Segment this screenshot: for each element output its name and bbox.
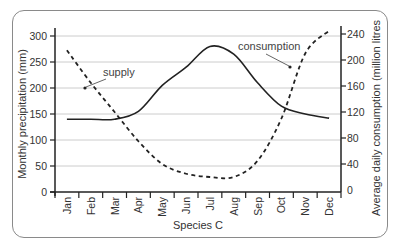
y2-tick-label: 120 (347, 106, 365, 118)
y-tick-label: 0 (41, 186, 47, 198)
x-tick-label: Jan (61, 197, 73, 214)
x-tick-label: Jun (180, 197, 192, 214)
y-tick-label: 50 (35, 160, 47, 172)
x-axis-title: Species C (173, 219, 223, 231)
consumption-label: consumption (238, 40, 300, 52)
y2-tick-label: 80 (347, 132, 359, 144)
y-tick-label: 200 (29, 82, 47, 94)
x-tick-label: May (156, 196, 168, 217)
consumption-line (67, 31, 329, 179)
chart: 050100150200250300 04080120160200240 Jan… (0, 0, 400, 252)
y2-tick-label: 160 (347, 80, 365, 92)
x-tick-label: Feb (85, 197, 97, 215)
y2-axis-title: Average daily consumption (million litre… (370, 19, 382, 216)
supply-arrow (86, 79, 106, 87)
right-axis: 04080120160200240 (341, 26, 365, 196)
y-axis-title: Monthly precipitation (mm) (16, 49, 28, 179)
consumption-arrow (266, 54, 289, 66)
x-tick-label: Aug (228, 197, 240, 216)
y2-tick-label: 200 (347, 54, 365, 66)
x-tick-label: Sep (252, 197, 264, 216)
y2-tick-label: 40 (347, 158, 359, 170)
y-tick-label: 150 (29, 108, 47, 120)
left-axis: 050100150200250300 (29, 28, 55, 198)
x-tick-label: Nov (299, 196, 311, 215)
y-tick-label: 300 (29, 30, 47, 42)
supply-arrow-head (83, 86, 86, 89)
y-tick-label: 100 (29, 134, 47, 146)
supply-line (67, 46, 329, 120)
y2-tick-label: 240 (347, 28, 365, 40)
consumption-arrow-head (288, 65, 291, 68)
x-tick-label: Mar (109, 197, 121, 216)
supply-label: supply (103, 66, 135, 78)
x-tick-label: Dec (323, 197, 335, 216)
x-tick-label: Jul (204, 197, 216, 210)
x-axis: JanFebMarAprMayJunJulAugSepOctNovDec (50, 192, 341, 217)
x-tick-label: Oct (275, 197, 287, 213)
y2-tick-label: 0 (347, 184, 353, 196)
y-tick-label: 250 (29, 56, 47, 68)
x-tick-label: Apr (132, 197, 144, 214)
